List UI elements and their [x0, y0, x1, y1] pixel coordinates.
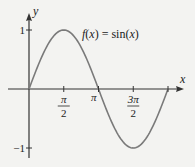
x-tick-label-numerator: π	[61, 93, 67, 105]
y-tick-label: 1	[20, 24, 26, 36]
y-axis-label: y	[32, 4, 39, 18]
annotation-end: )	[135, 27, 139, 41]
y-tick-label: −1	[13, 142, 25, 154]
annotation-eq: ) = sin(	[95, 27, 130, 41]
x-tick-label: π	[91, 91, 97, 103]
x-axis-label: x	[179, 72, 186, 86]
y-axis-arrow-icon	[26, 13, 32, 21]
x-axis-arrow-icon	[176, 86, 184, 92]
x-tick-label-numerator: 3π	[127, 93, 140, 105]
x-tick-label-denominator: 2	[131, 107, 137, 119]
x-tick-label-denominator: 2	[61, 107, 67, 119]
sine-chart: π2π3π21−1 y x f(x) = sin(x)	[0, 0, 195, 167]
function-annotation: f(x) = sin(x)	[82, 27, 139, 41]
